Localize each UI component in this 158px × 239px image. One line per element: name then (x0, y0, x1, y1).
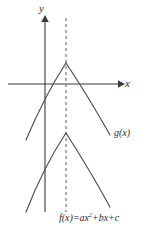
curve-g (26, 63, 110, 140)
curve-f (26, 133, 110, 212)
f-equation-const-c: c (115, 212, 119, 223)
f-equation-plus-2: + (108, 212, 115, 223)
x-axis-arrow-icon (118, 80, 125, 88)
curve-label-f-equation: f(x)=ax2+bx+c (59, 213, 119, 223)
y-axis-arrow-icon (41, 15, 49, 22)
y-axis (41, 15, 49, 212)
parabola-figure: y x g(x) f(x)=ax2+bx+c (0, 0, 158, 239)
graph-canvas (0, 0, 158, 239)
f-equation-equals: = (73, 212, 80, 223)
curve-label-g: g(x) (114, 128, 130, 138)
y-axis-label: y (39, 3, 44, 14)
f-equation-plus-1: + (92, 212, 99, 223)
f-equation-prefix: f(x) (59, 212, 73, 223)
x-axis-label: x (125, 78, 130, 89)
